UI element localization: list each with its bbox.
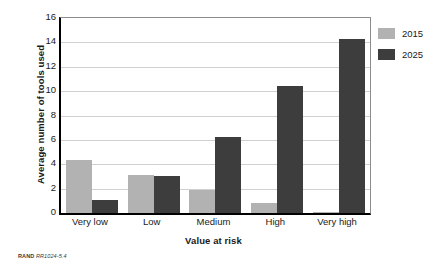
figure-source-note: RAND RR1024-5.4 <box>18 253 67 259</box>
x-axis-tick-labels: Very lowLowMediumHighVery high <box>59 216 368 228</box>
bar-group <box>246 18 308 213</box>
bar-group <box>185 18 247 213</box>
x-tick-label: Very low <box>59 216 121 228</box>
chart-legend: 20152025 <box>378 26 440 68</box>
legend-item-2025: 2025 <box>378 47 440 62</box>
x-tick-label: Low <box>121 216 183 228</box>
bar-2015-low <box>128 175 154 213</box>
legend-label: 2015 <box>402 28 423 39</box>
y-tick-label: 2 <box>30 183 56 193</box>
bar-2015-high <box>251 203 277 213</box>
y-tick-label: 6 <box>30 134 56 144</box>
bar-2025-high <box>277 86 303 213</box>
y-tick-label: 4 <box>30 158 56 168</box>
figure-container: Average number of tools used 02468101214… <box>0 0 446 274</box>
bar-2015-very-low <box>66 160 92 213</box>
bar-group <box>308 18 370 213</box>
bars-layer <box>61 18 370 213</box>
source-code: RR1024-5.4 <box>36 253 67 259</box>
legend-label: 2025 <box>402 49 423 60</box>
plot-area <box>59 17 371 215</box>
x-tick-label: Very high <box>306 216 368 228</box>
bar-2025-very-high <box>339 39 365 213</box>
legend-swatch-icon <box>378 28 395 39</box>
legend-item-2015: 2015 <box>378 26 440 41</box>
x-tick-label: High <box>244 216 306 228</box>
bar-2025-low <box>154 176 180 213</box>
bar-2025-medium <box>215 137 241 213</box>
y-tick-label: 0 <box>30 207 56 217</box>
y-axis-tick-labels: 0246810121416 <box>30 17 56 212</box>
x-axis-title: Value at risk <box>59 235 368 246</box>
legend-swatch-icon <box>378 49 395 60</box>
x-tick-label: Medium <box>183 216 245 228</box>
bar-group <box>61 18 123 213</box>
y-tick-label: 14 <box>30 36 56 46</box>
bar-group <box>123 18 185 213</box>
y-tick-label: 16 <box>30 12 56 22</box>
y-tick-label: 12 <box>30 61 56 71</box>
bar-2015-medium <box>189 190 215 213</box>
bar-2015-very-high <box>313 212 339 213</box>
y-tick-label: 10 <box>30 85 56 95</box>
source-brand: RAND <box>18 253 34 259</box>
y-tick-label: 8 <box>30 110 56 120</box>
bar-2025-very-low <box>92 200 118 213</box>
